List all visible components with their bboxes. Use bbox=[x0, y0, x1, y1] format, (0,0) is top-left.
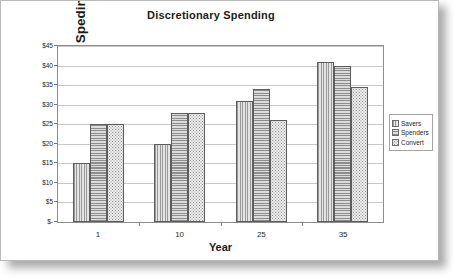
x-axis-tick-mark bbox=[302, 223, 303, 226]
legend-item-convert: Convert bbox=[392, 138, 429, 147]
y-axis-tick-label: $- bbox=[27, 218, 53, 225]
x-axis-tick-label: 25 bbox=[241, 230, 281, 239]
x-axis-tick-label: 35 bbox=[323, 230, 363, 239]
legend-item-savers: Savers bbox=[392, 119, 429, 128]
legend-swatch-convert bbox=[392, 139, 399, 146]
bar-spenders-1 bbox=[90, 124, 107, 222]
bar-convert-35 bbox=[351, 87, 368, 222]
x-axis-tick-mark bbox=[139, 223, 140, 226]
y-axis-tick-label: $10 bbox=[27, 179, 53, 186]
bar-convert-1 bbox=[107, 124, 124, 222]
legend-swatch-savers bbox=[392, 120, 399, 127]
legend-label: Spenders bbox=[401, 129, 429, 136]
bar-group bbox=[73, 46, 124, 222]
bar-convert-10 bbox=[188, 113, 205, 223]
bar-group bbox=[154, 46, 205, 222]
y-axis-tick-label: $40 bbox=[27, 62, 53, 69]
bar-spenders-35 bbox=[334, 66, 351, 222]
bar-group bbox=[317, 46, 368, 222]
legend-label: Convert bbox=[401, 139, 424, 146]
x-axis-tick-mark bbox=[221, 223, 222, 226]
legend-label: Savers bbox=[401, 120, 421, 127]
bar-savers-25 bbox=[236, 101, 253, 222]
bar-savers-1 bbox=[73, 163, 90, 222]
bar-spenders-10 bbox=[171, 113, 188, 223]
legend-swatch-spenders bbox=[392, 129, 399, 136]
scanned-chart-page: Discretionary Spending Discretionary Spe… bbox=[0, 0, 439, 261]
bar-group bbox=[236, 46, 287, 222]
y-axis-tick-label: $30 bbox=[27, 101, 53, 108]
x-axis-tick-label: 1 bbox=[78, 230, 118, 239]
bar-spenders-25 bbox=[253, 89, 270, 222]
legend-item-spenders: Spenders bbox=[392, 128, 429, 137]
page-title: Discretionary Spending bbox=[1, 9, 421, 21]
y-axis-tick-label: $35 bbox=[27, 81, 53, 88]
y-axis-tick-label: $45 bbox=[27, 42, 53, 49]
y-axis-tick-label: $20 bbox=[27, 140, 53, 147]
legend: SaversSpendersConvert bbox=[389, 114, 433, 151]
bar-savers-35 bbox=[317, 62, 334, 222]
y-axis-tick-label: $25 bbox=[27, 120, 53, 127]
x-axis-tick-label: 10 bbox=[160, 230, 200, 239]
bar-series-layer bbox=[58, 46, 383, 222]
y-axis-tick-label: $5 bbox=[27, 198, 53, 205]
bar-convert-25 bbox=[270, 120, 287, 222]
y-axis-tick-label: $15 bbox=[27, 159, 53, 166]
bar-savers-10 bbox=[154, 144, 171, 222]
x-axis-title: Year bbox=[57, 241, 384, 253]
plot-area bbox=[57, 45, 384, 223]
